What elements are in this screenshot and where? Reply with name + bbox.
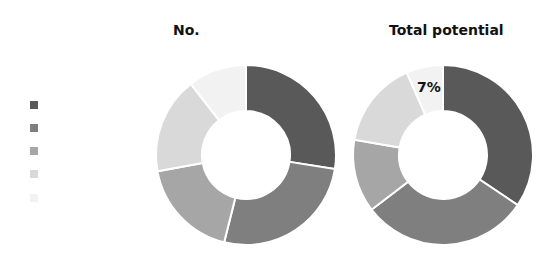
donut-slice-3 xyxy=(157,163,235,242)
data-label: 7% xyxy=(417,79,441,95)
donut-total-potential: 7% xyxy=(353,65,533,245)
donut-chart-left: 7% xyxy=(0,0,550,266)
donut-slice-1 xyxy=(246,65,336,169)
donut-no xyxy=(156,65,336,245)
donut-slice-2 xyxy=(224,162,335,245)
